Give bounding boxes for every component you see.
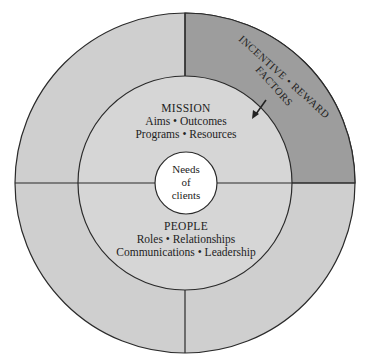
mission-title: MISSION [161,102,211,114]
people-line-1: Roles • Relationships [137,233,236,246]
mission-line-2: Programs • Resources [135,128,237,141]
center-text-2: of [181,176,191,188]
mission-line-1: Aims • Outcomes [145,115,227,127]
people-title: PEOPLE [164,220,208,232]
people-line-2: Communications • Leadership [116,246,256,259]
center-text-1: Needs [172,163,200,175]
concentric-diagram: Needs of clients MISSION Aims • Outcomes… [0,0,365,364]
center-text-3: clients [172,189,201,201]
